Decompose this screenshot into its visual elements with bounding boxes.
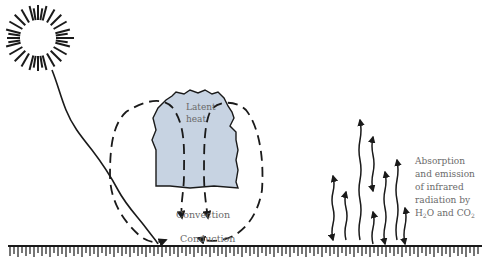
absorption-label-line4: radiation by — [415, 195, 471, 205]
ir-arrow-6 — [384, 172, 386, 244]
ir-arrow-3 — [359, 120, 361, 240]
ground — [8, 246, 482, 257]
absorption-label-line1: Absorption — [414, 156, 465, 166]
ir-arrow-7 — [396, 160, 398, 240]
absorption-label-line5: H2O and CO2 — [415, 208, 475, 219]
ir-arrow-4 — [372, 212, 374, 244]
formula-sub-2b: 2 — [471, 212, 475, 219]
absorption-label-line2: and emission — [415, 169, 475, 179]
ir-arrow-2 — [345, 192, 347, 240]
sun-icon — [6, 5, 74, 71]
absorption-label-line3: of infrared — [415, 182, 464, 192]
latent-heat-label-line1: Latent — [186, 102, 216, 112]
formula-h: H — [415, 208, 423, 218]
ir-arrow-1 — [332, 176, 334, 240]
latent-heat-label-line2: heat — [186, 114, 206, 124]
ir-arrow-5 — [372, 137, 374, 191]
formula-o-and-co: O and CO — [427, 208, 471, 218]
conduction-label: Conduction — [180, 233, 235, 244]
convection-label: Convection — [176, 209, 230, 220]
solar-radiation-line — [52, 70, 158, 244]
infrared-radiation-arrows — [332, 120, 406, 244]
heat-transfer-diagram: Latent heat Convection Conduction Absorp… — [0, 0, 487, 268]
ir-arrow-8 — [404, 208, 406, 244]
